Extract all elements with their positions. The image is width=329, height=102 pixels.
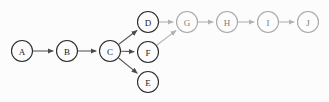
graph-node-b[interactable]: B (57, 41, 78, 62)
node-label-c: C (107, 47, 113, 57)
graph-node-j[interactable]: J (298, 12, 319, 33)
graph-diagram: ABCDFEGHIJ (0, 0, 329, 102)
node-label-d: D (145, 18, 152, 28)
edge-c-to-d (119, 30, 137, 44)
node-label-f: F (145, 48, 150, 58)
graph-canvas: ABCDFEGHIJ (0, 0, 329, 102)
node-label-e: E (145, 78, 151, 88)
graph-node-e[interactable]: E (138, 72, 159, 93)
graph-node-d[interactable]: D (138, 12, 159, 33)
graph-node-f[interactable]: F (138, 42, 159, 63)
edge-f-to-g (157, 30, 176, 45)
node-label-i: I (267, 18, 270, 28)
node-label-j: J (306, 18, 310, 28)
graph-node-c[interactable]: C (100, 41, 121, 62)
node-label-a: A (19, 47, 26, 57)
node-label-h: H (224, 18, 231, 28)
graph-node-a[interactable]: A (12, 41, 33, 62)
nodes-layer: ABCDFEGHIJ (12, 12, 319, 93)
graph-node-h[interactable]: H (217, 12, 238, 33)
node-label-g: G (184, 18, 191, 28)
node-label-b: B (64, 47, 70, 57)
edge-c-to-e (119, 58, 138, 73)
graph-node-g[interactable]: G (177, 12, 198, 33)
graph-node-i[interactable]: I (258, 12, 279, 33)
